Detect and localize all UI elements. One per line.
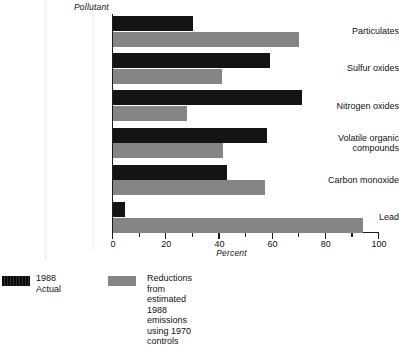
category-label: Particulates [291, 26, 399, 37]
x-tick-major [272, 233, 273, 239]
chart-legend: 1988 Actual Reductions from estimated 19… [0, 272, 399, 304]
bar-reduction [113, 32, 299, 47]
x-tick-major [112, 233, 113, 239]
x-tick-major [325, 233, 326, 239]
bar-actual [113, 128, 267, 143]
y-axis-line [112, 14, 113, 233]
bar-actual [113, 90, 302, 105]
bar-actual [113, 16, 193, 31]
legend-label-actual: 1988 Actual [36, 273, 61, 294]
x-tick-minor [298, 233, 299, 237]
x-tick-minor [139, 233, 140, 237]
bar-reduction [113, 106, 187, 121]
bar-reduction [113, 218, 363, 233]
x-tick-minor [351, 233, 352, 237]
legend-label-reduction: Reductions from estimated 1988 emissions… [147, 273, 192, 347]
category-label: Volatile organic compounds [291, 132, 399, 153]
bar-chart: Pollutant 020406080100 ParticulatesSulfu… [0, 0, 399, 262]
bar-actual [113, 165, 227, 180]
y-axis-title: Pollutant [74, 2, 109, 12]
category-label: Carbon monoxide [291, 175, 399, 186]
x-tick-major [218, 233, 219, 239]
x-axis-title: Percent [0, 248, 399, 258]
category-label: Nitrogen oxides [291, 100, 399, 111]
x-axis-title-text: Percent [216, 248, 247, 258]
black-swatch-icon [2, 276, 30, 286]
bar-reduction [113, 180, 265, 195]
bar-actual [113, 202, 125, 217]
bar-reduction [113, 143, 223, 158]
gray-swatch-icon [108, 276, 136, 286]
bar-actual [113, 53, 270, 68]
x-tick-minor [192, 233, 193, 237]
x-tick-major [165, 233, 166, 239]
x-tick-minor [245, 233, 246, 237]
bar-reduction [113, 69, 222, 84]
x-tick-major [378, 233, 379, 239]
category-label: Sulfur oxides [291, 63, 399, 74]
